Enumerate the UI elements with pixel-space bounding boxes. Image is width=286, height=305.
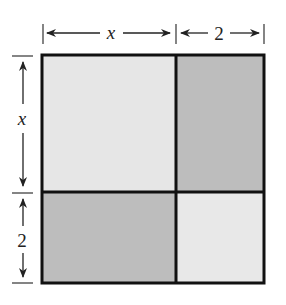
region-2-by-x: [176, 55, 264, 192]
top-dimension-ticks: [43, 24, 264, 44]
region-2-by-2: [176, 192, 264, 283]
region-x-by-x: [42, 55, 176, 192]
left-x-label: x: [17, 108, 27, 129]
region-x-by-2: [42, 192, 176, 283]
top-x-label: x: [106, 22, 116, 43]
area-model-diagram: x 2 x 2: [0, 0, 286, 305]
left-2-label: 2: [17, 230, 27, 251]
top-2-label: 2: [214, 23, 224, 44]
